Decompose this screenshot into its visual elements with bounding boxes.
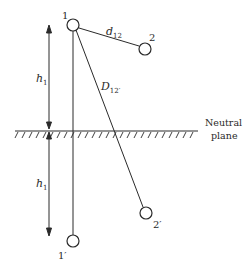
conductor-image-diagram: 1 2 1′ 2′ d12 D12′ h1 h1 Neutral plane — [0, 0, 249, 267]
d12-label: d12 — [106, 25, 122, 40]
arrowhead-down-icon — [47, 122, 52, 129]
ground-hatching — [15, 132, 193, 138]
height-dimension-upper — [47, 25, 52, 129]
conductor-2prime-icon — [140, 207, 152, 219]
conductor-1prime-icon — [67, 235, 79, 247]
neutral-plane-label-line2: plane — [211, 130, 238, 141]
distance-line-D12prime — [76, 30, 143, 207]
conductor-2-icon — [139, 43, 151, 55]
conductor-1-label: 1 — [62, 10, 68, 21]
arrowhead-up-icon — [47, 132, 52, 139]
h1-lower-label: h1 — [36, 177, 48, 192]
conductor-2prime-label: 2′ — [153, 219, 162, 230]
neutral-plane-label-line1: Neutral — [205, 117, 242, 128]
conductor-1-icon — [67, 19, 79, 31]
neutral-plane — [15, 131, 198, 138]
h1-upper-label: h1 — [36, 72, 48, 87]
conductor-1prime-label: 1′ — [58, 250, 67, 261]
D12prime-label: D12′ — [100, 80, 121, 95]
conductor-2-label: 2 — [149, 32, 155, 43]
arrowhead-up-icon — [47, 25, 52, 33]
arrowhead-down-icon — [47, 228, 52, 236]
